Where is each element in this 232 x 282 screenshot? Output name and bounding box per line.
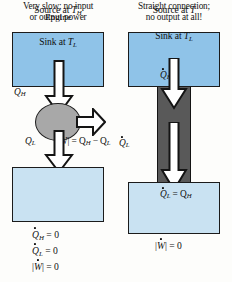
equation-right-0-rhs: = 0 — [167, 240, 182, 251]
work-label-left-sub2: L — [107, 139, 111, 146]
heat-in-symbol-left: Q — [14, 87, 21, 97]
sink-label-right-text: Sink at — [155, 30, 184, 41]
sink-label-left: Sink at TL — [12, 36, 104, 48]
heat-out-sub-left: L — [32, 139, 36, 146]
equation-right-0-symbol: W — [157, 240, 165, 251]
equation-left-2-rhs: = 0 — [44, 261, 59, 272]
source-label-right-symbol: T — [190, 4, 195, 15]
heat-in-sub-left: H — [21, 90, 26, 97]
heat-out-symbol-right: Q — [119, 138, 126, 148]
heat-out-label-left: QL — [25, 136, 35, 146]
work-label-left-mid: − Q — [90, 136, 106, 146]
sink-label-right: Sink at TL — [128, 30, 220, 42]
equation-left-1: QL = 0 — [32, 245, 58, 257]
source-label-right-text: Source at — [153, 4, 190, 15]
sink-equation-right-mid: = Q — [170, 189, 186, 199]
equation-left-0: QH = 0 — [32, 229, 59, 241]
heat-in-label-left: QH — [14, 87, 25, 97]
equation-left-2-symbol: W — [34, 261, 42, 272]
equation-left-0-rhs: = 0 — [44, 229, 59, 240]
equation-right-0: |W| = 0 — [155, 240, 182, 251]
panel-slow-engine: Very slow; no input or output power Sour… — [0, 0, 116, 282]
source-label-right: Source at T — [128, 4, 220, 15]
work-out-arrow-left — [76, 108, 106, 136]
equation-left-1-rhs: = 0 — [43, 245, 58, 256]
equation-left-2: |W| = 0 — [32, 261, 59, 272]
sink-label-left-text: Sink at — [39, 36, 68, 47]
heat-out-sub-right: L — [126, 141, 130, 148]
sink-equation-right-rhs-sub: H — [187, 192, 192, 199]
heat-out-label-right: QL — [119, 138, 129, 148]
equation-left-1-symbol: Q — [32, 245, 39, 256]
heat-out-symbol-left: Q — [25, 136, 32, 146]
sink-equation-right: QL = QH — [160, 189, 191, 199]
sink-equation-right-lhs: Q — [160, 189, 167, 199]
equation-left-0-symbol: Q — [32, 229, 39, 240]
sink-box-left — [12, 167, 104, 222]
figure-root: Very slow; no input or output power Sour… — [0, 0, 232, 282]
engine-label: Engine — [35, 12, 81, 22]
sink-label-right-sub: L — [189, 35, 193, 42]
sink-label-left-sub: L — [73, 41, 77, 48]
heat-flow-arrow-right-upper — [159, 58, 189, 110]
